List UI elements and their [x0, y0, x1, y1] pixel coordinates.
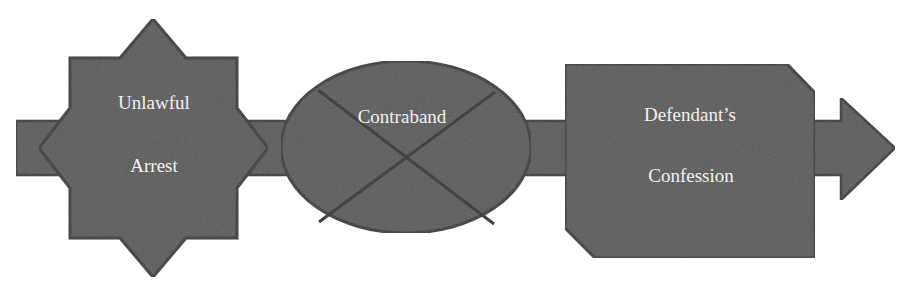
node-defendants-confession-shape	[565, 64, 815, 258]
node-defendants-confession-label-line-2: Confession	[648, 165, 734, 187]
node-unlawful-arrest-label-line-1: Unlawful	[118, 92, 190, 114]
snipped-rectangle-shape	[565, 64, 815, 258]
node-unlawful-arrest-label-line-2: Arrest	[130, 155, 177, 177]
node-contraband-label: Contraband	[358, 106, 447, 128]
flow-diagram	[0, 0, 912, 297]
node-unlawful-arrest-shape	[39, 19, 268, 277]
eight-point-star-icon	[39, 19, 268, 277]
node-contraband-shape	[281, 61, 531, 233]
node-defendants-confession-label-line-1: Defendant’s	[644, 104, 736, 126]
ellipse-shape	[281, 61, 531, 233]
